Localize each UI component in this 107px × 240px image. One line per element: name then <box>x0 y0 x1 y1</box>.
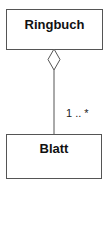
multiplicity-label: 1 .. * <box>66 107 89 119</box>
class-box-blatt: Blatt <box>6 134 102 179</box>
hollow-diamond-icon <box>48 49 60 70</box>
class-name-blatt: Blatt <box>7 141 101 156</box>
